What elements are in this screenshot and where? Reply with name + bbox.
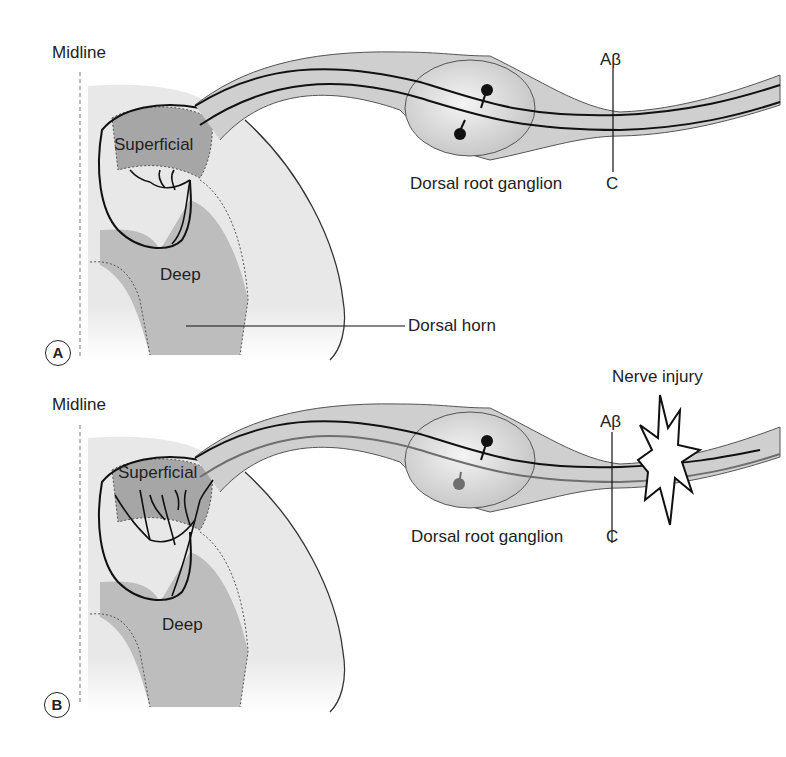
deep-label-a: Deep [160,265,201,285]
midline-label-a: Midline [52,43,106,63]
abeta-label-a: Aβ [600,50,621,70]
drg-label-b: Dorsal root ganglion [411,527,563,547]
c-cell-body-injured [453,478,465,490]
deep-label-b: Deep [162,615,203,635]
c-cell-body [454,128,466,140]
figure: Midline Superficial Deep Dorsal root gan… [0,0,786,757]
midline-label-b: Midline [52,395,106,415]
panel-a [80,52,780,360]
c-label-a: C [606,174,618,194]
abeta-label-b: Aβ [600,412,621,432]
dorsal-horn-label: Dorsal horn [408,316,496,336]
superficial-label-a: Superficial [114,135,193,155]
abeta-cell-body [481,84,493,96]
panel-b [80,395,780,712]
abeta-cell-body [481,435,493,447]
c-label-b: C [606,527,618,547]
superficial-label-b: Superficial [118,463,197,483]
nerve-injury-label: Nerve injury [612,367,703,387]
drg-label-a: Dorsal root ganglion [410,174,562,194]
panel-a-badge: A [45,340,71,366]
panel-b-badge: B [44,692,70,718]
